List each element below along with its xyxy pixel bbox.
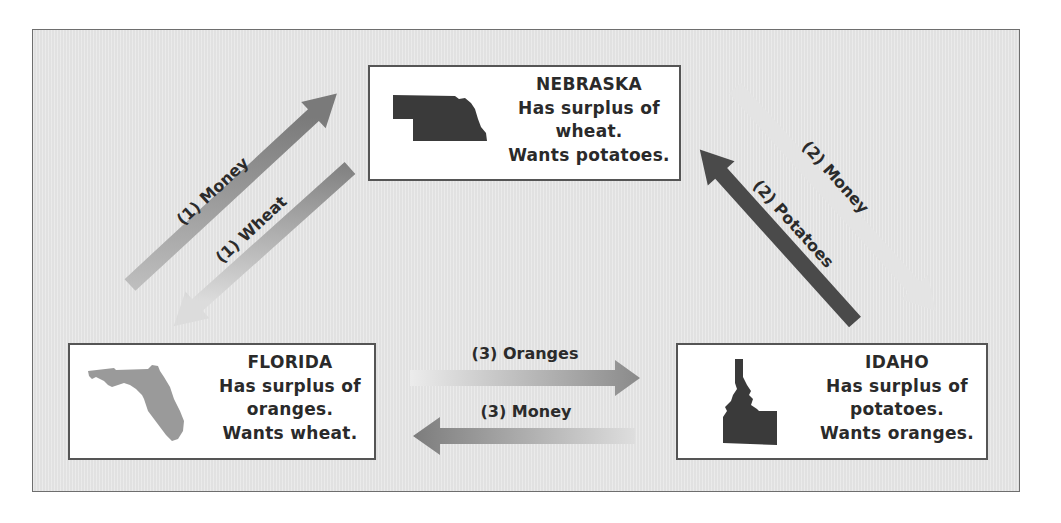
state-name: IDAHO [806,351,988,375]
idaho-silhouette-icon [723,359,778,445]
nebraska-silhouette-icon [393,95,488,143]
state-box-nebraska: NEBRASKA Has surplus of wheat. Wants pot… [368,65,681,181]
florida-silhouette-icon [86,365,186,443]
arrow-3-oranges [410,360,640,396]
idaho-description: IDAHO Has surplus of potatoes. Wants ora… [806,351,988,445]
nebraska-description: NEBRASKA Has surplus of wheat. Wants pot… [498,73,680,167]
state-box-idaho: IDAHO Has surplus of potatoes. Wants ora… [676,343,988,460]
arrow-2-money [722,76,949,323]
arrow-1-wheat [162,155,362,340]
florida-description: FLORIDA Has surplus of oranges. Wants wh… [205,351,375,445]
state-box-florida: FLORIDA Has surplus of oranges. Wants wh… [68,343,376,460]
label-3-money: (3) Money [481,402,572,421]
arrow-2-potatoes [686,138,868,334]
state-name: NEBRASKA [498,73,680,97]
state-name: FLORIDA [205,351,375,375]
arrow-3-money [413,417,635,455]
label-3-oranges: (3) Oranges [472,344,579,363]
